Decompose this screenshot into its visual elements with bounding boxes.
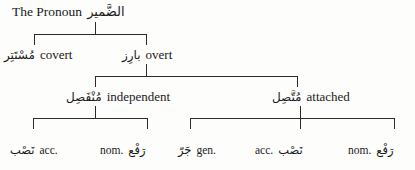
node-attached-accusative-label-ar: نَصْب <box>278 145 302 157</box>
node-attached-nominative-label-ar: رَفْع <box>376 145 393 157</box>
connector-independent-stem <box>95 106 96 118</box>
node-root-label-en: The Pronoun <box>12 5 82 19</box>
connector-to-independent <box>95 76 96 87</box>
node-attached-accusative: acc. نَصْب <box>255 145 303 157</box>
node-root: The Pronoun الضَّمير <box>12 5 125 19</box>
node-overt-label-en: overt <box>146 48 173 61</box>
node-independent: مُنْفَصِل independent <box>66 90 170 103</box>
node-covert-label-en: covert <box>40 48 72 61</box>
connector-level1-bus <box>34 34 147 35</box>
node-attached-label-ar: مُتَّصِل <box>272 91 302 103</box>
node-covert-label-ar: مُسْتَتِر <box>4 49 35 61</box>
connector-level2-bus <box>95 76 298 77</box>
pronoun-tree-diagram: The Pronoun الضَّمير مُسْتَتِر covert با… <box>0 0 415 170</box>
connector-to-overt <box>146 34 147 45</box>
node-attached-genitive-label-ar: جَرّ <box>178 145 191 157</box>
connector-to-covert <box>34 34 35 45</box>
connector-to-attached <box>297 76 298 87</box>
connector-independent-bus <box>33 118 147 119</box>
node-attached-genitive-label-en: gen. <box>196 145 215 157</box>
connector-root-stem <box>95 22 96 34</box>
node-attached-label-en: attached <box>307 90 350 103</box>
connector-to-att-gen <box>190 118 191 129</box>
node-independent-accusative-label-ar: نَصْب <box>10 145 34 157</box>
node-independent-accusative: نَصْب acc. <box>10 145 58 157</box>
node-attached: مُتَّصِل attached <box>272 90 350 103</box>
node-root-label-ar: الضَّمير <box>87 5 124 18</box>
node-attached-accusative-label-en: acc. <box>255 145 273 157</box>
node-attached-nominative-label-en: nom. <box>348 145 371 157</box>
connector-to-att-acc <box>300 112 301 129</box>
connector-to-indep-nom <box>147 118 148 129</box>
node-attached-nominative: nom. رَفْع <box>348 145 394 157</box>
connector-to-att-nom <box>394 118 395 129</box>
node-independent-label-en: independent <box>107 90 171 103</box>
connector-to-indep-acc <box>33 118 34 129</box>
node-overt-label-ar: بارِز <box>122 49 141 61</box>
node-independent-nominative-label-ar: رَفْع <box>128 145 145 157</box>
node-independent-label-ar: مُنْفَصِل <box>66 91 102 103</box>
node-independent-accusative-label-en: acc. <box>39 145 57 157</box>
node-overt: بارِز overt <box>122 48 172 61</box>
node-independent-nominative-label-en: nom. <box>100 145 123 157</box>
node-covert: مُسْتَتِر covert <box>4 48 72 61</box>
connector-overt-stem <box>146 64 147 76</box>
node-independent-nominative: nom. رَفْع <box>100 145 146 157</box>
node-attached-genitive: جَرّ gen. <box>178 145 216 157</box>
connector-attached-bus <box>190 118 394 119</box>
